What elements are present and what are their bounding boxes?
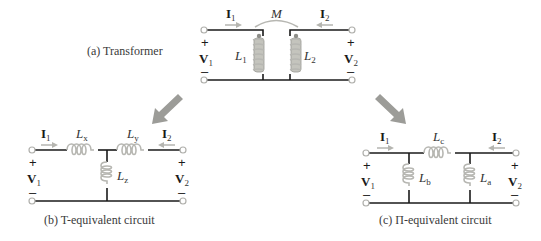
transformer-circuit: M I1 I2 L1 L2 + V1 – + V2 – (a) Transfor…	[87, 6, 358, 83]
inductor-l1-label: L1	[234, 48, 247, 65]
plus-sign: +	[347, 35, 355, 50]
inductor-lx-label: Lx	[75, 126, 88, 143]
current-i2-label: I2	[320, 6, 330, 23]
inductor-lz-label: Lz	[116, 168, 128, 185]
inductor-ly-label: Ly	[126, 126, 139, 143]
minus-sign: –	[511, 187, 519, 202]
inductor-lz-icon	[101, 162, 112, 184]
top-right-wire	[290, 30, 351, 36]
inductor-l1-icon	[253, 34, 264, 72]
inductor-la-label: La	[479, 170, 491, 187]
inductor-lx-icon	[67, 144, 94, 155]
mutual-label: M	[270, 6, 283, 21]
current-i2-label: I2	[492, 129, 502, 146]
plus-sign: +	[511, 158, 519, 173]
inductor-lc-icon	[424, 147, 451, 158]
minus-sign: –	[347, 64, 355, 79]
current-i1-label: I1	[226, 6, 236, 23]
inductor-lb-label: Lb	[418, 170, 431, 187]
caption-a: (a) Transformer	[87, 44, 163, 58]
top-left-wire	[205, 30, 263, 36]
circuit-diagram: M I1 I2 L1 L2 + V1 – + V2 – (a) Transfor…	[0, 0, 541, 241]
terminal-icon	[349, 27, 355, 33]
terminal-icon	[513, 150, 519, 156]
terminal-icon	[363, 150, 369, 156]
terminal-icon	[29, 147, 35, 153]
plus-sign: +	[201, 35, 209, 50]
arrow-to-pi-circuit-icon	[375, 94, 406, 124]
minus-sign: –	[178, 185, 186, 200]
current-i2-label: I2	[162, 126, 172, 143]
inductor-lb-icon	[403, 164, 414, 186]
current-i1-label: I1	[41, 126, 51, 143]
caption-c: (c) Π-equivalent circuit	[379, 213, 492, 227]
arrow-to-t-circuit-icon	[152, 94, 183, 124]
inductor-ly-icon	[117, 144, 144, 155]
inductor-la-icon	[464, 164, 475, 186]
inductor-l2-label: L2	[303, 48, 316, 65]
plus-sign: +	[178, 155, 186, 170]
polarity-dot-icon	[294, 34, 298, 38]
inductor-l2-icon	[290, 34, 301, 72]
terminal-icon	[201, 27, 207, 33]
pi-equivalent-circuit: I1 I2 Lc Lb La + V1 – + V2 – (c) Π-equiv…	[361, 129, 522, 227]
polarity-dot-icon	[257, 34, 261, 38]
inductor-lc-label: Lc	[432, 129, 444, 146]
minus-sign: –	[201, 64, 209, 79]
minus-sign: –	[363, 187, 371, 202]
minus-sign: –	[29, 185, 37, 200]
mutual-coupling-arc-icon	[255, 21, 298, 28]
plus-sign: +	[29, 155, 37, 170]
plus-sign: +	[363, 158, 371, 173]
caption-b: (b) T-equivalent circuit	[44, 213, 155, 227]
current-i1-label: I1	[380, 129, 390, 146]
terminal-icon	[180, 147, 186, 153]
t-equivalent-circuit: I1 I2 Lx Ly Lz + V1 – + V2 – (b) T-equiv…	[27, 126, 189, 227]
